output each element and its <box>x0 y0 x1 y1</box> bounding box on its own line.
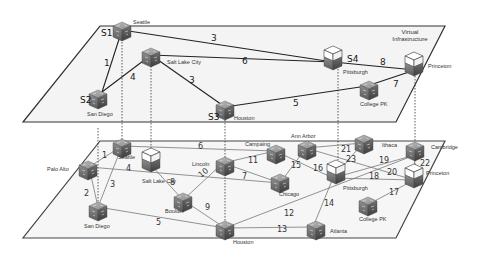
svg-text:2: 2 <box>84 189 89 198</box>
svg-text:23: 23 <box>346 155 356 164</box>
svg-text:Chicago: Chicago <box>279 191 299 197</box>
svg-text:Ann Arbor: Ann Arbor <box>291 133 316 139</box>
svg-text:Princeton: Princeton <box>426 170 449 176</box>
city-label: Seattle <box>133 19 150 25</box>
svg-text:3: 3 <box>189 75 195 85</box>
city-label: Houston <box>234 115 255 121</box>
network-diagram: Virtual Infrastructure 1 3 4 6 3 5 8 7 S… <box>0 0 497 260</box>
svg-text:Atlanta: Atlanta <box>330 228 348 234</box>
svg-text:Campaing: Campaing <box>245 141 270 147</box>
svg-text:14: 14 <box>324 199 334 208</box>
svg-text:3: 3 <box>110 180 115 189</box>
svg-text:San Diego: San Diego <box>84 223 110 229</box>
city-label: San Diego <box>87 111 113 117</box>
svg-text:6: 6 <box>198 142 203 151</box>
svg-text:1: 1 <box>104 58 110 68</box>
diagram-title-line1: Virtual <box>402 29 419 35</box>
city-label: Princeton <box>428 63 451 69</box>
svg-text:19: 19 <box>379 156 389 165</box>
svg-text:Houston: Houston <box>233 239 254 245</box>
svg-text:Palo Alto: Palo Alto <box>47 166 69 172</box>
svg-text:21: 21 <box>341 145 351 154</box>
svg-text:18: 18 <box>369 172 379 181</box>
svg-text:20: 20 <box>387 168 397 177</box>
svg-text:Lincoln: Lincoln <box>192 161 209 167</box>
svg-text:Boulder: Boulder <box>165 208 184 214</box>
switch-id: S2 <box>80 95 91 105</box>
svg-text:8: 8 <box>380 57 386 67</box>
city-label: Salt Lake City <box>167 59 201 65</box>
svg-text:1: 1 <box>102 151 107 160</box>
diagram-title-line2: Infrastructure <box>392 36 428 42</box>
svg-text:9: 9 <box>205 203 210 212</box>
svg-text:3: 3 <box>211 33 217 43</box>
svg-text:5: 5 <box>156 218 161 227</box>
svg-text:6: 6 <box>242 56 248 66</box>
svg-text:Seattle: Seattle <box>118 154 135 160</box>
switch-id: S3 <box>208 112 219 122</box>
svg-text:4: 4 <box>126 164 131 173</box>
switch-id: S4 <box>347 54 359 64</box>
svg-text:13: 13 <box>277 225 287 234</box>
svg-text:7: 7 <box>393 79 399 89</box>
svg-text:7: 7 <box>242 172 247 181</box>
svg-text:12: 12 <box>284 209 294 218</box>
svg-text:Ithaca: Ithaca <box>382 142 398 148</box>
city-label: College PK <box>360 101 388 107</box>
svg-text:Salt Lake City: Salt Lake City <box>142 178 176 184</box>
svg-text:22: 22 <box>420 159 430 168</box>
svg-text:College PK: College PK <box>359 216 387 222</box>
svg-text:16: 16 <box>313 164 323 173</box>
svg-text:17: 17 <box>389 188 399 197</box>
svg-text:4: 4 <box>130 72 136 82</box>
svg-text:Pittsburgh: Pittsburgh <box>343 185 368 191</box>
svg-text:Cambridge: Cambridge <box>431 144 458 150</box>
svg-text:11: 11 <box>248 156 258 165</box>
svg-text:5: 5 <box>293 98 299 108</box>
switch-id: S1 <box>101 28 112 38</box>
svg-text:15: 15 <box>291 161 301 170</box>
city-label: Pittsburgh <box>343 69 368 75</box>
